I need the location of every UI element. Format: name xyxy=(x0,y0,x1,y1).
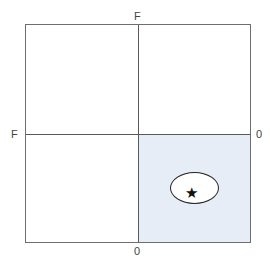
axis-label-left: F xyxy=(11,129,18,140)
horizontal-axis-line xyxy=(26,134,250,135)
axis-label-bottom: 0 xyxy=(134,246,140,257)
star-icon: ★ xyxy=(183,185,199,201)
axis-label-right: 0 xyxy=(256,129,262,140)
axis-label-top: F xyxy=(134,11,141,22)
quadrant-grid xyxy=(25,24,251,243)
